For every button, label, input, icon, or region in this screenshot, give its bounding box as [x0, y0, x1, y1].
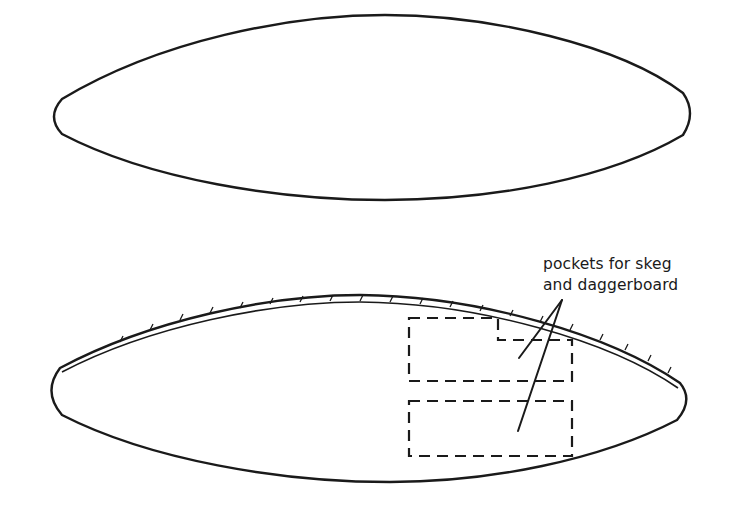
annotation-line-2: and daggerboard [543, 275, 678, 296]
annotation-line-1: pockets for skeg [543, 254, 678, 275]
top-hull-outline [54, 15, 690, 200]
bottom-hull-outline [51, 295, 686, 482]
annotation-label: pockets for skeg and daggerboard [543, 254, 678, 296]
